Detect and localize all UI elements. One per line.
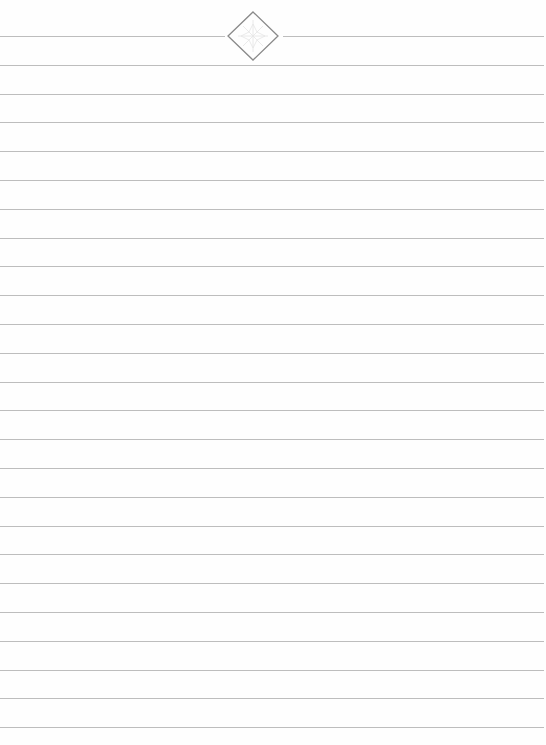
ruled-line — [0, 497, 544, 498]
ruled-line — [0, 410, 544, 411]
ruled-line — [0, 698, 544, 699]
ruled-line — [0, 670, 544, 671]
ruled-line — [0, 209, 544, 210]
ruled-line — [0, 295, 544, 296]
ruled-line — [0, 583, 544, 584]
ruled-line — [0, 353, 544, 354]
ruled-line — [0, 554, 544, 555]
ruled-line — [0, 526, 544, 527]
ruled-line — [0, 324, 544, 325]
ruled-line — [0, 122, 544, 123]
ruled-line — [0, 65, 544, 66]
ruled-line — [0, 94, 544, 95]
lined-paper-page — [0, 0, 546, 745]
ruled-line — [0, 439, 544, 440]
ruled-line — [0, 612, 544, 613]
ruled-line-segment — [0, 36, 225, 37]
ruled-line-segment — [283, 36, 544, 37]
ruled-line — [0, 468, 544, 469]
ruled-line — [0, 641, 544, 642]
ruled-line — [0, 382, 544, 383]
ruled-line — [0, 266, 544, 267]
diamond-ornament-icon — [226, 10, 280, 62]
ruled-line — [0, 727, 544, 728]
ruled-line — [0, 238, 544, 239]
ruled-line — [0, 151, 544, 152]
ruled-line — [0, 180, 544, 181]
